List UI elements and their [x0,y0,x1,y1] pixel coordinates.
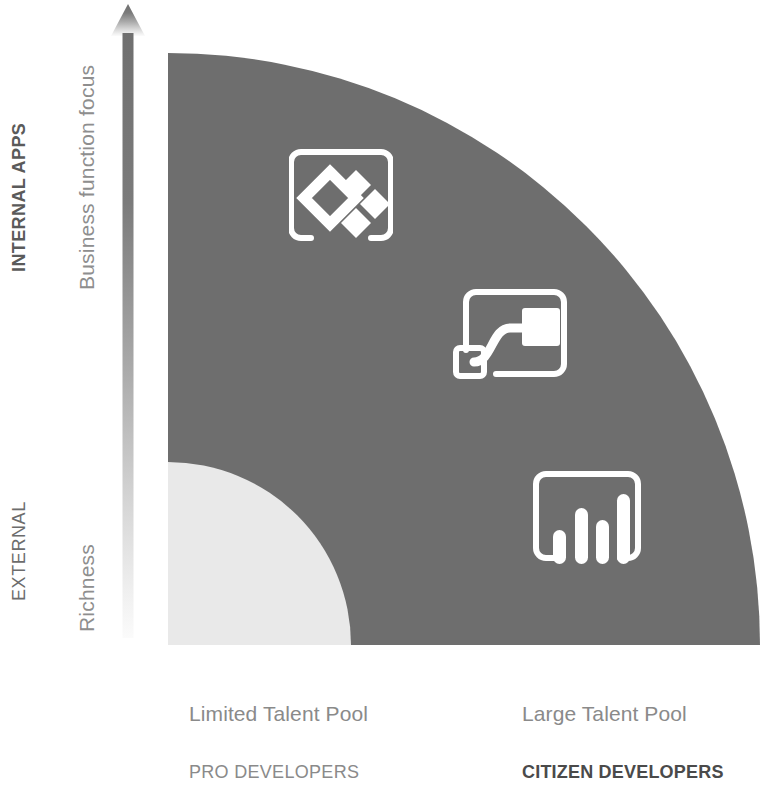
y-axis-measure-business-function-focus: Business function focus [76,65,97,290]
x-axis-left-pool-label: Limited Talent Pool [189,703,368,724]
x-axis-left-developer-label: PRO DEVELOPERS [189,763,359,781]
x-axis-right-developer-label: CITIZEN DEVELOPERS [522,763,724,781]
up-arrow-icon [104,0,152,640]
y-axis-category-internal-apps: INTERNAL APPS [10,123,28,272]
power-apps-icon [289,148,393,244]
power-automate-icon [452,288,568,382]
power-bi-icon [532,468,642,568]
diagram-canvas: INTERNAL APPS EXTERNAL Business function… [0,0,760,804]
y-axis-category-external: EXTERNAL [10,501,28,601]
x-axis-right-pool-label: Large Talent Pool [522,703,687,724]
y-axis-measure-richness: Richness [76,544,97,632]
